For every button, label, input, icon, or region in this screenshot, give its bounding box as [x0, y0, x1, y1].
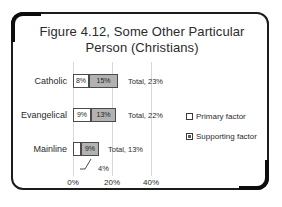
bar-segment-primary-mainline: 4%	[73, 142, 81, 156]
callout-label-mainline-primary: 4%	[98, 164, 109, 173]
axis-tick-0: 0%	[58, 178, 88, 187]
legend-swatch-primary-icon	[186, 113, 193, 120]
axis-tick-40: 40%	[136, 178, 166, 187]
bar-segment-primary-catholic: 8%	[73, 74, 89, 88]
category-label-catholic: Catholic	[5, 76, 67, 86]
bar-segment-primary-evangelical: 9%	[73, 108, 91, 122]
chart-legend: Primary factor Supporting factor	[186, 112, 266, 152]
total-label-mainline: Total, 13%	[108, 145, 143, 154]
legend-label-primary-factor: Primary factor	[196, 112, 246, 121]
slide-frame: Figure 4.12, Some Other Particular Perso…	[11, 12, 269, 190]
legend-item-primary-factor: Primary factor	[186, 112, 266, 121]
axis-tick-20: 20%	[97, 178, 127, 187]
category-label-mainline: Mainline	[5, 144, 67, 154]
legend-label-supporting-factor: Supporting factor	[196, 132, 257, 141]
bar-segment-supporting-evangelical: 13%	[91, 108, 116, 122]
bar-segment-supporting-catholic: 15%	[89, 74, 118, 88]
category-label-evangelical: Evangelical	[5, 110, 67, 120]
total-label-evangelical: Total, 22%	[128, 111, 163, 120]
bar-segment-supporting-mainline: 9%	[81, 142, 99, 156]
legend-swatch-supporting-icon	[186, 133, 193, 140]
chart-plot-area: Catholic 8% 15% Total, 23% Evangelical 9…	[13, 14, 271, 192]
callout-leader-line	[79, 156, 97, 170]
legend-item-supporting-factor: Supporting factor	[186, 132, 266, 141]
total-label-catholic: Total, 23%	[128, 77, 163, 86]
